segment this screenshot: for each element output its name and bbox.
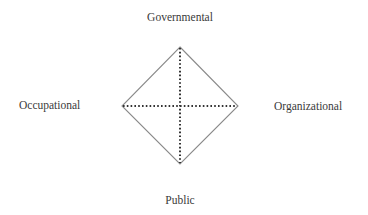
label-public: Public [165, 195, 194, 207]
label-governmental: Governmental [147, 12, 213, 24]
label-organizational: Organizational [274, 101, 342, 113]
label-occupational: Occupational [19, 100, 80, 112]
